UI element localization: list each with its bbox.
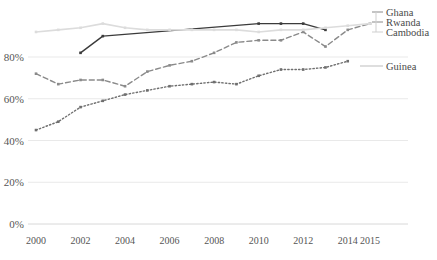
data-point-marker: [57, 29, 60, 32]
x-axis-labels: 200020022004200620082010201220142015: [26, 235, 380, 246]
chart-container: 0%20%40%60%80% 2000200220042006200820102…: [0, 0, 437, 260]
data-point-marker: [191, 29, 194, 32]
x-axis-tick-label: 2012: [293, 235, 313, 246]
data-point-marker: [35, 72, 38, 75]
data-point-marker: [213, 81, 216, 84]
data-point-marker: [124, 26, 127, 29]
data-point-marker: [280, 22, 283, 25]
data-point-marker: [369, 22, 372, 25]
data-point-marker: [280, 39, 283, 42]
y-axis-tick-label: 80%: [4, 51, 24, 63]
legend-label-guinea: Guinea: [386, 61, 417, 72]
x-axis-tick-label: 2000: [26, 235, 46, 246]
x-axis-tick-label: 2008: [204, 235, 224, 246]
x-axis-tick-label: 2004: [115, 235, 135, 246]
data-point-marker: [168, 85, 171, 88]
y-axis-tick-label: 60%: [4, 93, 24, 105]
series-guinea: [35, 60, 349, 131]
data-point-marker: [213, 29, 216, 32]
data-point-marker: [257, 31, 260, 34]
series-ghana: [79, 22, 327, 54]
series-line: [36, 24, 370, 87]
series-line: [81, 24, 326, 53]
x-axis-tick-label: 2015: [360, 235, 380, 246]
data-point-marker: [280, 68, 283, 71]
x-axis-tick-label: 2010: [249, 235, 269, 246]
data-point-marker: [302, 68, 305, 71]
x-axis-tick-label: 2006: [160, 235, 180, 246]
data-point-marker: [324, 45, 327, 48]
data-point-marker: [191, 60, 194, 63]
data-point-marker: [257, 39, 260, 42]
data-point-marker: [235, 41, 238, 44]
series-rwanda: [35, 22, 372, 87]
data-point-marker: [235, 29, 238, 32]
data-point-marker: [168, 29, 171, 32]
x-axis-tick-label: 2014: [338, 235, 358, 246]
x-axis-tick-label: 2002: [71, 235, 91, 246]
data-point-marker: [57, 120, 60, 123]
data-point-marker: [124, 93, 127, 96]
data-point-marker: [168, 64, 171, 67]
y-axis-labels: 0%20%40%60%80%: [4, 51, 24, 230]
data-point-marker: [102, 35, 105, 38]
series-line: [36, 61, 348, 130]
data-point-marker: [79, 106, 82, 109]
data-point-marker: [346, 29, 349, 32]
y-axis-tick-label: 20%: [4, 176, 24, 188]
chart-legend: GhanaRwandaCambodiaGuinea: [360, 7, 429, 72]
data-point-marker: [146, 89, 149, 92]
data-point-marker: [79, 52, 82, 55]
data-point-marker: [146, 29, 149, 32]
data-point-marker: [57, 83, 60, 86]
data-point-marker: [257, 74, 260, 77]
data-point-marker: [35, 129, 38, 132]
data-point-marker: [35, 31, 38, 34]
data-point-marker: [324, 26, 327, 29]
y-axis-tick-label: 0%: [9, 218, 24, 230]
line-chart: 0%20%40%60%80% 2000200220042006200820102…: [0, 0, 437, 260]
data-point-marker: [124, 85, 127, 88]
data-point-marker: [302, 29, 305, 32]
legend-label-cambodia: Cambodia: [386, 27, 429, 38]
data-point-marker: [102, 79, 105, 82]
data-point-marker: [346, 60, 349, 63]
data-point-marker: [102, 22, 105, 25]
data-point-marker: [302, 22, 305, 25]
data-point-marker: [346, 24, 349, 27]
data-point-marker: [213, 52, 216, 55]
data-point-marker: [191, 83, 194, 86]
data-series-layer: [35, 22, 372, 131]
data-point-marker: [280, 29, 283, 32]
data-point-marker: [324, 66, 327, 69]
data-point-marker: [79, 79, 82, 82]
data-point-marker: [102, 100, 105, 103]
data-point-marker: [235, 83, 238, 86]
data-point-marker: [257, 22, 260, 25]
y-axis-tick-label: 40%: [4, 135, 24, 147]
data-point-marker: [146, 70, 149, 73]
data-point-marker: [79, 26, 82, 29]
